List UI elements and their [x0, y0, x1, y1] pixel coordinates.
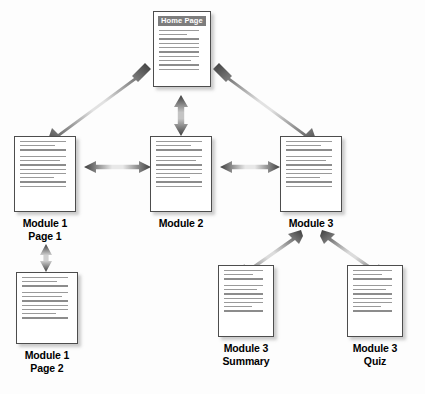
document-body-lines: [15, 137, 75, 194]
label-line-2: Quiz: [347, 355, 403, 368]
document-shape-home-page: Home Page: [153, 11, 211, 87]
connector-home-to-module-2: [174, 95, 188, 136]
node-module-3[interactable]: Module 3: [280, 136, 342, 230]
node-module-3-summary[interactable]: Module 3 Summary: [218, 265, 274, 367]
document-title-bar: Home Page: [158, 16, 206, 26]
document-shape-module-3: [280, 136, 342, 212]
connector-module-2-to-module-3: [220, 161, 280, 173]
document-shape-module-3-quiz: [347, 265, 403, 337]
node-label-module-1-page-2: Module 1 Page 2: [16, 349, 78, 374]
document-shape-module-1-page-1: [14, 136, 76, 212]
label-line-1: Module 1: [14, 217, 76, 230]
document-shape-module-3-summary: [218, 265, 274, 337]
node-label-module-2: Module 2: [150, 217, 212, 230]
node-module-1-page-2[interactable]: Module 1 Page 2: [16, 272, 78, 374]
document-body-lines: [154, 29, 210, 77]
label-line-2: Summary: [218, 355, 274, 368]
document-shape-module-2: [150, 136, 212, 212]
node-module-2[interactable]: Module 2: [150, 136, 212, 230]
node-module-1-page-1[interactable]: Module 1 Page 1: [14, 136, 76, 242]
document-body-lines: [17, 273, 77, 326]
label-line-1: Module 1: [16, 349, 78, 362]
label-line-1: Module 3: [218, 342, 274, 355]
document-body-lines: [281, 137, 341, 194]
node-label-module-3-quiz: Module 3 Quiz: [347, 342, 403, 367]
node-label-module-1-page-1: Module 1 Page 1: [14, 217, 76, 242]
label-line-1: Module 3: [280, 217, 342, 230]
node-label-module-3: Module 3: [280, 217, 342, 230]
node-label-module-3-summary: Module 3 Summary: [218, 342, 274, 367]
label-line-2: Page 1: [14, 230, 76, 243]
label-line-2: Page 2: [16, 362, 78, 375]
label-line-1: Module 2: [150, 217, 212, 230]
node-module-3-quiz[interactable]: Module 3 Quiz: [347, 265, 403, 367]
document-body-lines: [219, 266, 273, 319]
document-body-lines: [151, 137, 211, 194]
document-body-lines: [348, 266, 402, 319]
diagram-canvas: Home Page: [0, 0, 425, 394]
node-home-page[interactable]: Home Page: [153, 11, 211, 87]
document-shape-module-1-page-2: [16, 272, 78, 344]
label-line-1: Module 3: [347, 342, 403, 355]
connector-module-1-page-1-to-page-2: [40, 244, 52, 272]
connector-module-1-to-module-2: [84, 161, 151, 173]
